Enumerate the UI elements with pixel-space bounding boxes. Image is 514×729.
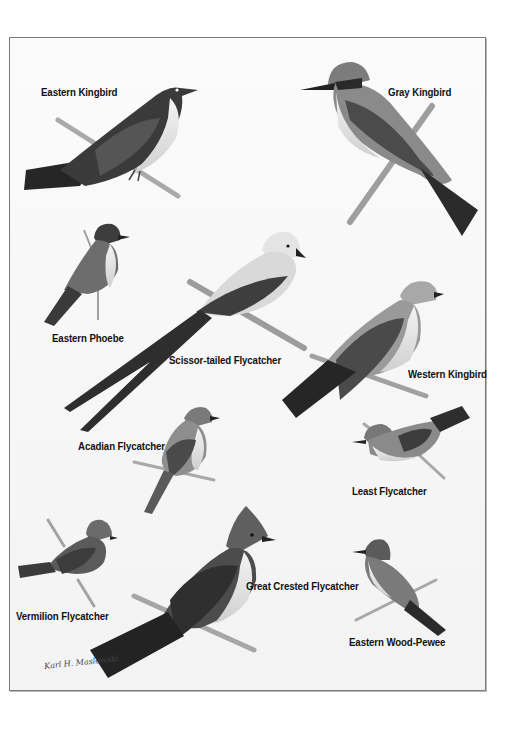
eye (286, 244, 289, 247)
label-least-flycatcher: Least Flycatcher (352, 485, 427, 497)
label-vermilion-flycatcher: Vermilion Flycatcher (16, 610, 109, 622)
label-eastern-phoebe: Eastern Phoebe (52, 332, 124, 344)
tail (18, 562, 56, 578)
vermilion-flycatcher-illustration (18, 520, 118, 606)
eye (175, 88, 178, 91)
label-scissor-tailed-flycatcher: Scissor-tailed Flycatcher (169, 354, 281, 366)
label-gray-kingbird: Gray Kingbird (388, 86, 451, 98)
eastern-kingbird-illustration (24, 88, 198, 197)
beak (210, 416, 220, 421)
beak (300, 83, 335, 90)
beak (434, 292, 444, 298)
least-flycatcher-illustration (352, 406, 470, 478)
label-acadian-flycatcher: Acadian Flycatcher (78, 440, 165, 452)
acadian-flycatcher-illustration (134, 407, 220, 514)
head (226, 506, 268, 554)
beak (262, 536, 276, 542)
beak (110, 536, 118, 540)
beak (118, 235, 130, 240)
label-great-crested-flycatcher: Great Crested Flycatcher (246, 580, 359, 592)
tail (404, 600, 446, 636)
eastern-wood-pewee-illustration (352, 539, 446, 636)
tail (144, 470, 174, 514)
great-crested-flycatcher-illustration (90, 506, 276, 678)
label-western-kingbird: Western Kingbird (408, 368, 487, 380)
eye (250, 533, 254, 537)
beak (352, 440, 366, 444)
beak (352, 550, 366, 554)
eastern-phoebe-illustration (44, 224, 130, 326)
label-eastern-wood-pewee: Eastern Wood-Pewee (349, 636, 445, 648)
tail (44, 286, 82, 326)
label-eastern-kingbird: Eastern Kingbird (41, 86, 117, 98)
